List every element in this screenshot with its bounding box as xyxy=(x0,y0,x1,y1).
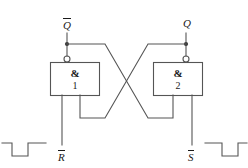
label-output-q: Q xyxy=(183,18,191,29)
label-input-sbar: S xyxy=(188,150,194,163)
label-output-q-text: Q xyxy=(183,17,191,29)
waveform-left-trace xyxy=(2,143,46,156)
gate2-inversion-bubble xyxy=(183,56,189,62)
schematic-svg xyxy=(0,0,248,168)
gate1-symbol: & xyxy=(50,68,100,79)
label-output-qbar: Q xyxy=(63,18,71,31)
gate2-symbol: & xyxy=(153,68,203,79)
label-input-sbar-text: S xyxy=(188,150,194,163)
label-output-qbar-text: Q xyxy=(63,18,71,31)
waveform-right-trace xyxy=(205,143,247,156)
label-input-rbar-text: R xyxy=(58,150,65,163)
gate2-number: 2 xyxy=(153,81,203,91)
gate1-inversion-bubble xyxy=(64,56,70,62)
label-input-rbar: R xyxy=(58,150,65,163)
circuit-diagram-canvas: Q Q R S & 1 & 2 xyxy=(0,0,248,168)
gate1-number: 1 xyxy=(50,81,100,91)
